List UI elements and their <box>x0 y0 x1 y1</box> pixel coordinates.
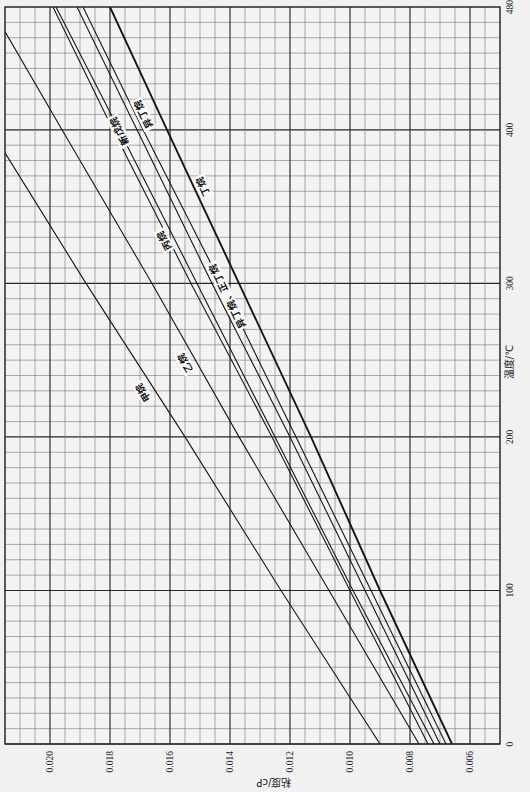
rotated-chart-container: 甲烷乙烷丙烷新戊烷异丁烷丁烷异丁烷、正丁烷 0100200300400480 0… <box>0 0 530 792</box>
x-tick-label: 0 <box>505 741 515 746</box>
y-tick-label: 0.014 <box>225 751 235 773</box>
y-tick-label: 0.016 <box>165 751 175 773</box>
chart-page: 甲烷乙烷丙烷新戊烷异丁烷丁烷异丁烷、正丁烷 0100200300400480 0… <box>0 0 530 792</box>
y-tick-label: 0.008 <box>405 751 415 773</box>
y-tick-label: 0.020 <box>45 751 55 773</box>
x-tick-label: 100 <box>505 583 515 598</box>
y-tick-label: 0.006 <box>465 751 475 773</box>
viscosity-axis-ticks: 0.0200.0180.0160.0140.0120.0100.0080.006 <box>45 751 475 773</box>
x-tick-label: 480 <box>505 0 515 14</box>
x-tick-label: 300 <box>505 276 515 291</box>
y-axis-title: 粘度/cP <box>257 777 292 789</box>
y-tick-label: 0.010 <box>345 751 355 773</box>
x-tick-label: 400 <box>505 122 515 137</box>
viscosity-temperature-chart: 甲烷乙烷丙烷新戊烷异丁烷丁烷异丁烷、正丁烷 0100200300400480 0… <box>0 0 530 792</box>
x-axis-title: 温度/℃ <box>503 345 515 380</box>
x-tick-label: 200 <box>505 430 515 445</box>
y-tick-label: 0.018 <box>105 751 115 773</box>
y-tick-label: 0.012 <box>285 751 295 773</box>
